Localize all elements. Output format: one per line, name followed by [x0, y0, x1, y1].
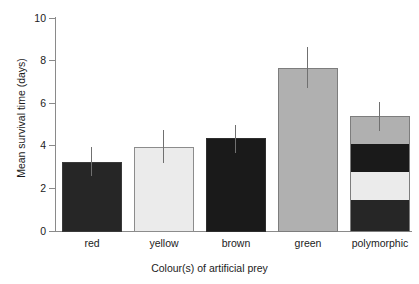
- bar-band-brown: [351, 144, 409, 172]
- y-axis-line: [55, 17, 56, 232]
- errorbar-polymorphic: [379, 102, 380, 131]
- x-label-red: red: [62, 237, 122, 249]
- x-label-yellow: yellow: [134, 237, 194, 249]
- bar-band-yellow: [351, 172, 409, 200]
- bar-red: [62, 162, 122, 232]
- x-label-green: green: [278, 237, 338, 249]
- errorbar-red: [91, 147, 92, 176]
- y-tick-label-10: 10: [2, 13, 46, 23]
- y-tick-label-8: 8: [2, 55, 46, 65]
- y-tick-label-0: 0: [2, 226, 46, 236]
- x-label-polymorphic: polymorphic: [341, 237, 419, 249]
- bar-green: [278, 68, 338, 232]
- x-axis-title: Colour(s) of artificial prey: [0, 262, 419, 274]
- y-tick-label-2: 2: [2, 183, 46, 193]
- bar-yellow: [134, 147, 194, 232]
- bar-band-green: [351, 117, 409, 144]
- bar-polymorphic: [350, 116, 410, 232]
- bar-band-red: [351, 200, 409, 232]
- y-tick-label-4: 4: [2, 140, 46, 150]
- errorbar-brown: [235, 125, 236, 153]
- errorbar-green: [307, 47, 308, 88]
- chart-figure: Mean survival time (days) 10 8 6 4 2 0: [0, 0, 419, 284]
- y-tick-label-6: 6: [2, 98, 46, 108]
- bar-brown: [206, 138, 266, 232]
- y-axis-ticks: 10 8 6 4 2 0: [0, 0, 56, 284]
- errorbar-yellow: [163, 130, 164, 163]
- x-label-brown: brown: [206, 237, 266, 249]
